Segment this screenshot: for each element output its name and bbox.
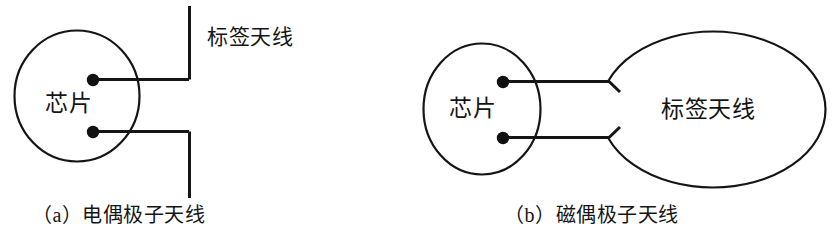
diagram-a-electric-dipole [15, 6, 190, 198]
chip-label-a: 芯片 [45, 92, 92, 115]
chip-label-b: 芯片 [449, 97, 496, 120]
antenna-label-a: 标签天线 [207, 27, 293, 48]
terminal-dot-lower-b [497, 132, 509, 144]
terminal-dot-upper-a [87, 74, 99, 86]
loop-neck-mask [596, 81, 625, 139]
caption-a: （a）电偶极子天线 [32, 205, 205, 225]
terminal-dot-lower-a [87, 126, 99, 138]
figure-container: 芯片 标签天线 （a）电偶极子天线 芯片 标签天线 （b）磁偶极子天线 [0, 0, 837, 246]
antenna-label-b: 标签天线 [661, 98, 755, 121]
caption-b: （b）磁偶极子天线 [504, 205, 679, 225]
terminal-dot-upper-b [497, 76, 509, 88]
